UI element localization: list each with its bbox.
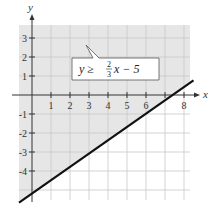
y-axis-label: y	[27, 1, 33, 13]
svg-text:-4: -4	[19, 166, 27, 177]
svg-text:6: 6	[144, 100, 149, 111]
svg-text:8: 8	[182, 100, 187, 111]
svg-text:2: 2	[22, 52, 27, 63]
svg-text:2: 2	[68, 100, 73, 111]
graph: 1 2 3 4 5 6 8 3 2 1 -1 -2 -3 -4 x y y ≥ …	[0, 0, 212, 213]
svg-text:4: 4	[106, 100, 111, 111]
svg-text:x − 5: x − 5	[113, 62, 139, 76]
svg-text:3: 3	[107, 70, 111, 79]
svg-text:3: 3	[22, 33, 27, 44]
svg-text:-3: -3	[19, 147, 27, 158]
svg-text:-2: -2	[19, 128, 27, 139]
svg-text:2: 2	[107, 60, 111, 69]
svg-text:1: 1	[22, 71, 27, 82]
svg-text:5: 5	[125, 100, 130, 111]
x-axis-arrow-icon	[194, 93, 200, 98]
svg-text:y ≥: y ≥	[78, 62, 94, 76]
svg-text:3: 3	[87, 100, 92, 111]
y-axis-arrow-icon	[30, 14, 35, 20]
x-axis-label: x	[202, 88, 208, 100]
svg-text:-1: -1	[19, 109, 27, 120]
svg-text:1: 1	[49, 100, 54, 111]
